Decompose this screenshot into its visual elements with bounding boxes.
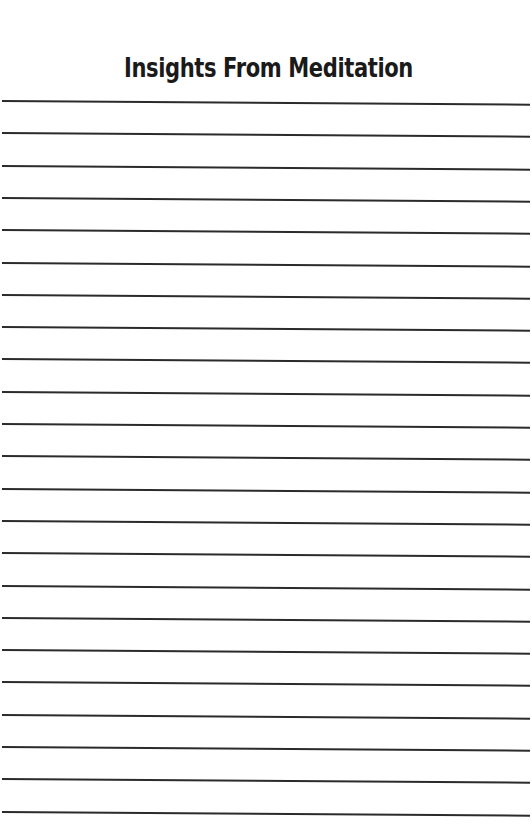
ruled-line <box>2 681 530 687</box>
ruled-line <box>2 391 530 397</box>
notebook-page: Insights From Meditation <box>0 0 532 838</box>
ruled-line <box>2 520 530 526</box>
ruled-line <box>2 488 530 494</box>
ruled-line <box>2 294 530 300</box>
ruled-line <box>2 165 530 171</box>
ruled-line <box>2 262 530 268</box>
ruled-line <box>2 617 530 623</box>
ruled-line <box>2 746 530 752</box>
ruled-lines-area <box>0 0 532 838</box>
ruled-line <box>2 100 530 106</box>
ruled-line <box>2 326 530 332</box>
ruled-line <box>2 132 530 138</box>
ruled-line <box>2 423 530 429</box>
ruled-line <box>2 811 530 817</box>
ruled-line <box>2 455 530 461</box>
ruled-line <box>2 358 530 364</box>
ruled-line <box>2 552 530 558</box>
ruled-line <box>2 585 530 591</box>
ruled-line <box>2 649 530 655</box>
ruled-line <box>2 229 530 235</box>
ruled-line <box>2 197 530 203</box>
ruled-line <box>2 778 530 784</box>
ruled-line <box>2 714 530 720</box>
